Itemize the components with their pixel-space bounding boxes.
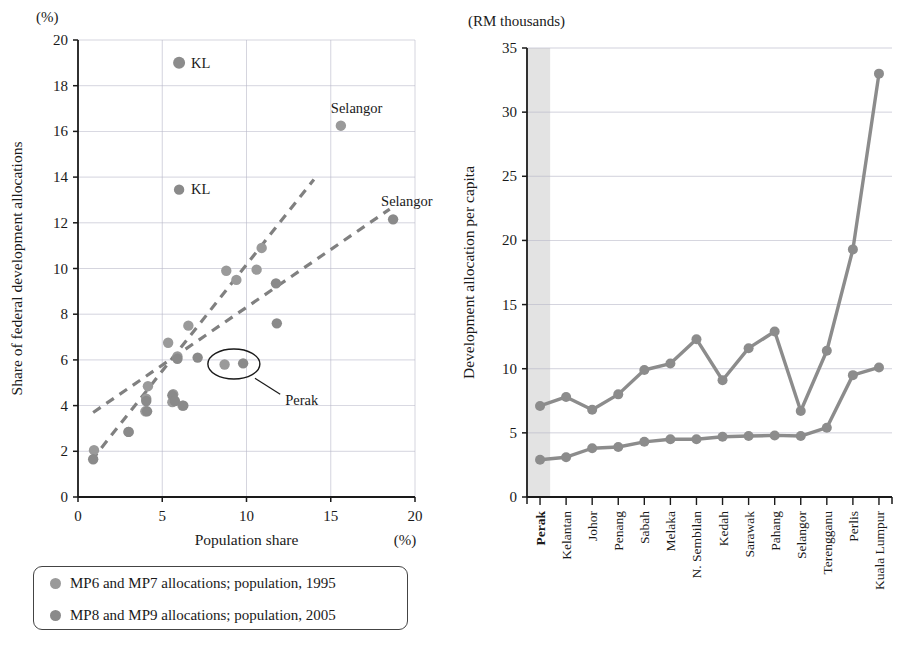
- line-point: [822, 346, 832, 356]
- y-tick-label: 20: [53, 32, 68, 48]
- legend-marker-icon: [50, 610, 61, 621]
- y-tick-label: 18: [53, 78, 68, 94]
- category-label: Kedah: [716, 511, 731, 546]
- y-tick-label: 35: [502, 40, 517, 56]
- line-point: [770, 430, 780, 440]
- category-label: Perak: [533, 511, 548, 546]
- y-tick-label: 6: [61, 352, 69, 368]
- y-tick-label: 10: [502, 361, 517, 377]
- category-label: Sarawak: [742, 511, 757, 558]
- scatter-point: [174, 184, 184, 194]
- point-label-selangor: Selangor: [381, 193, 433, 209]
- line-series-0: [540, 74, 879, 411]
- y-tick-label: 0: [61, 489, 69, 505]
- legend-item-2005: MP8 and MP9 allocations; population, 200…: [34, 599, 407, 631]
- y-tick-label: 14: [53, 169, 69, 185]
- y-unit-note: (RM thousands): [468, 13, 565, 30]
- y-tick-label: 12: [53, 215, 68, 231]
- y-tick-label: 25: [502, 168, 517, 184]
- scatter-point: [336, 120, 346, 130]
- category-label: Pahang: [768, 511, 783, 551]
- scatter-point: [256, 243, 266, 253]
- perak-callout-label: Perak: [285, 392, 319, 408]
- line-point: [691, 434, 701, 444]
- scatter-point: [172, 354, 182, 364]
- point-label-selangor: Selangor: [331, 100, 383, 116]
- scatter-point-kl: [173, 57, 185, 69]
- line-point: [718, 375, 728, 385]
- line-point: [770, 327, 780, 337]
- y-unit-note: (%): [36, 9, 59, 26]
- line-point: [744, 343, 754, 353]
- y-tick-label: 2: [61, 443, 69, 459]
- perak-callout-leader: [255, 378, 280, 394]
- x-tick-label: 15: [323, 508, 338, 524]
- scatter-point: [163, 338, 173, 348]
- line-chart: 05101520253035PerakKelantanJohorPenangSa…: [452, 0, 904, 650]
- legend-item-1995: MP6 and MP7 allocations; population, 199…: [34, 567, 407, 599]
- category-label: Perlis: [846, 511, 861, 542]
- y-tick-label: 4: [61, 398, 69, 414]
- scatter-point: [183, 320, 193, 330]
- line-point: [535, 401, 545, 411]
- line-point: [718, 432, 728, 442]
- category-label: Terengganu: [820, 511, 835, 575]
- line-point: [613, 442, 623, 452]
- trendline-shallow-dashed-2005: [93, 209, 390, 412]
- scatter-point: [272, 318, 282, 328]
- legend-marker-icon: [50, 578, 61, 589]
- y-tick-label: 5: [510, 425, 518, 441]
- scatter-panel: PerakKLSelangorKLSelangor024681012141618…: [0, 0, 452, 650]
- scatter-point: [142, 406, 152, 416]
- line-point: [587, 405, 597, 415]
- line-panel: 05101520253035PerakKelantanJohorPenangSa…: [452, 0, 904, 650]
- scatter-point: [123, 427, 133, 437]
- y-tick-label: 15: [502, 297, 517, 313]
- line-point: [639, 365, 649, 375]
- y-axis-title: Share of federal development allocations: [8, 142, 25, 396]
- x-tick-label: 20: [408, 508, 423, 524]
- x-tick-label: 10: [239, 508, 254, 524]
- line-point: [874, 362, 884, 372]
- line-point: [665, 359, 675, 369]
- category-label: Selangor: [794, 511, 809, 559]
- scatter-point: [221, 266, 231, 276]
- chart-legend: MP6 and MP7 allocations; population, 199…: [33, 566, 408, 630]
- line-point: [665, 434, 675, 444]
- x-unit-note: (%): [394, 532, 417, 549]
- legend-label: MP6 and MP7 allocations; population, 199…: [70, 575, 336, 592]
- scatter-point: [388, 214, 398, 224]
- x-axis-title: Population share: [195, 531, 299, 548]
- category-label: Johor: [585, 510, 600, 541]
- scatter-point: [219, 359, 229, 369]
- line-point: [796, 406, 806, 416]
- scatter-chart: PerakKLSelangorKLSelangor024681012141618…: [0, 0, 452, 560]
- scatter-point: [178, 400, 188, 410]
- y-tick-label: 10: [53, 261, 68, 277]
- perak-highlight-band: [528, 48, 550, 497]
- point-label-kl: KL: [191, 181, 210, 197]
- line-point: [848, 244, 858, 254]
- category-label: Kuala Lumpur: [872, 511, 887, 591]
- y-axis-title: Development allocation per capita: [460, 166, 477, 379]
- perak-callout-ellipse: [208, 349, 260, 379]
- legend-label: MP8 and MP9 allocations; population, 200…: [70, 607, 336, 624]
- line-point: [744, 431, 754, 441]
- y-tick-label: 30: [502, 104, 517, 120]
- category-label: Melaka: [663, 511, 678, 551]
- category-label: Sabah: [637, 511, 652, 544]
- y-tick-label: 0: [510, 489, 518, 505]
- line-point: [691, 334, 701, 344]
- scatter-point: [271, 278, 281, 288]
- scatter-point: [89, 445, 99, 455]
- line-plot-area: 05101520253035PerakKelantanJohorPenangSa…: [502, 40, 892, 590]
- y-tick-label: 20: [502, 232, 517, 248]
- line-point: [613, 389, 623, 399]
- line-point: [535, 455, 545, 465]
- x-tick-label: 5: [159, 508, 167, 524]
- scatter-point: [88, 454, 98, 464]
- line-point: [848, 370, 858, 380]
- line-point: [561, 452, 571, 462]
- scatter-point: [231, 275, 241, 285]
- line-point: [561, 392, 571, 402]
